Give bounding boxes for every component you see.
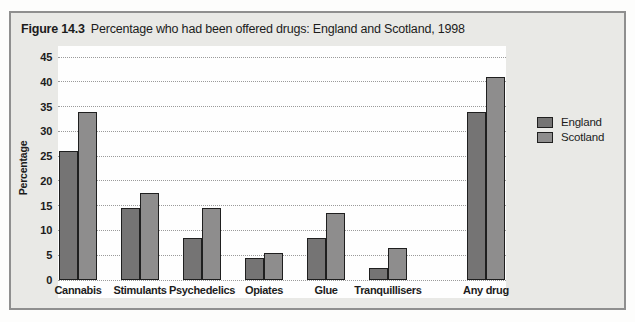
legend: England Scotland [537, 116, 604, 146]
bar-scotland-psychedelics [202, 208, 221, 280]
gridline-30 [58, 131, 506, 132]
bar-england-stimulants [121, 208, 140, 280]
y-tick-5: 5 [24, 249, 52, 261]
legend-label-england: England [561, 116, 602, 128]
y-tick-35: 35 [24, 101, 52, 113]
x-label-tranquillisers: Tranquillisers [340, 284, 436, 296]
bar-scotland-any-drug [486, 77, 505, 280]
legend-item-england: England [537, 116, 604, 128]
bar-england-opiates [245, 258, 264, 280]
y-tick-40: 40 [24, 76, 52, 88]
figure-14-3-chart: Figure 14.3Percentage who had been offer… [0, 0, 635, 322]
legend-item-scotland: Scotland [537, 131, 604, 143]
x-label-any-drug: Any drug [438, 284, 534, 296]
bar-scotland-tranquillisers [388, 248, 407, 280]
bar-england-psychedelics [183, 238, 202, 280]
england-swatch-icon [537, 117, 553, 128]
gridline-15 [58, 205, 506, 206]
legend-label-scotland: Scotland [561, 131, 604, 143]
figure-title: Figure 14.3Percentage who had been offer… [21, 22, 465, 36]
y-tick-10: 10 [24, 224, 52, 236]
bar-scotland-glue [326, 213, 345, 280]
bar-england-cannabis [59, 151, 78, 280]
scotland-swatch-icon [537, 132, 553, 143]
bar-scotland-stimulants [140, 193, 159, 280]
gridline-45 [58, 57, 506, 58]
y-axis-title: Percentage [17, 128, 31, 208]
bar-england-any-drug [467, 112, 486, 280]
bar-scotland-cannabis [78, 112, 97, 280]
bar-england-glue [307, 238, 326, 280]
gridline-20 [58, 180, 506, 181]
figure-title-text: Percentage who had been offered drugs: E… [91, 22, 465, 36]
y-tick-45: 45 [24, 51, 52, 63]
bar-scotland-opiates [264, 253, 283, 280]
gridline-25 [58, 156, 506, 157]
bar-england-tranquillisers [369, 268, 388, 280]
gridline-40 [58, 81, 506, 82]
figure-number-label: Figure 14.3 [21, 22, 85, 36]
gridline-35 [58, 106, 506, 107]
